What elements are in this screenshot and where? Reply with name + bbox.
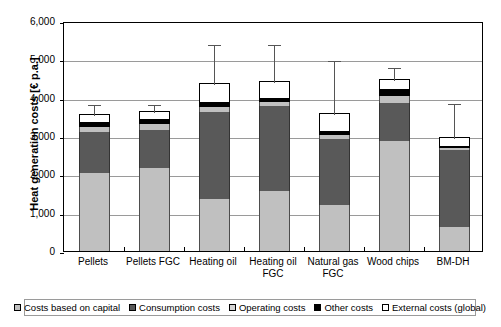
legend-swatch-icon [129, 304, 136, 311]
bar-segment [139, 130, 170, 168]
bar-segment [139, 168, 170, 251]
legend-label: Costs based on capital [24, 303, 120, 313]
bar-segment [199, 83, 230, 102]
stacked-bar[interactable] [79, 114, 110, 251]
bar-segment [439, 150, 470, 227]
bar-segment [259, 106, 290, 191]
bar-segment [199, 112, 230, 199]
error-bar [334, 61, 335, 115]
y-axis-tick-label: 4,000 [11, 94, 55, 104]
stacked-bar[interactable] [379, 79, 410, 251]
legend-item[interactable]: Other costs [314, 303, 373, 313]
error-bar [454, 104, 455, 140]
stacked-bar[interactable] [319, 113, 350, 251]
stacked-bar[interactable] [259, 81, 290, 251]
legend-label: Operating costs [239, 303, 306, 313]
bar-group [364, 23, 424, 251]
legend-item[interactable]: Consumption costs [129, 303, 220, 313]
legend-item[interactable]: Operating costs [229, 303, 306, 313]
stacked-bar[interactable] [139, 111, 170, 251]
legend-item[interactable]: External costs (global) [382, 303, 486, 313]
stacked-bar[interactable] [439, 137, 470, 251]
y-axis-tick-label: 0 [11, 247, 55, 257]
bar-segment [379, 103, 410, 141]
error-bar [394, 68, 395, 81]
y-axis-tick [60, 253, 64, 254]
x-axis-tick-label: Heating oil FGC [243, 256, 303, 280]
x-axis-tick-label: Natural gas FGC [303, 256, 363, 280]
bar-segment [319, 205, 350, 251]
bar-group [304, 23, 364, 251]
legend-swatch-icon [382, 304, 389, 311]
x-axis-tick-label: BM-DH [423, 256, 483, 268]
y-axis-tick-label: 5,000 [11, 55, 55, 65]
legend-swatch-icon [314, 304, 321, 311]
y-axis-tick-label: 6,000 [11, 17, 55, 27]
error-bar [274, 45, 275, 83]
bar-segment [319, 139, 350, 206]
error-bar-cap [328, 61, 341, 62]
bar-segment [439, 227, 470, 251]
y-axis-tick-label: 1,000 [11, 209, 55, 219]
bar-group [244, 23, 304, 251]
chart-legend: Costs based on capitalConsumption costsO… [24, 299, 476, 316]
stacked-bar[interactable] [199, 83, 230, 251]
error-bar-cap [88, 105, 101, 106]
x-axis-tick-label: Pellets FGC [123, 256, 183, 268]
legend-label: Other costs [324, 303, 373, 313]
x-axis-tick-label: Pellets [63, 256, 123, 268]
y-axis-tick-label: 3,000 [11, 132, 55, 142]
error-bar-cap [148, 105, 161, 106]
error-bar [94, 105, 95, 116]
bar-group [124, 23, 184, 251]
bar-segment [379, 89, 410, 96]
plot-area [63, 22, 483, 252]
legend-label: Consumption costs [139, 303, 220, 313]
legend-label: External costs (global) [392, 303, 486, 313]
legend-item[interactable]: Costs based on capital [14, 303, 120, 313]
bar-segment [319, 113, 350, 131]
bar-group [424, 23, 484, 251]
x-axis-tick-label: Heating oil [183, 256, 243, 268]
x-axis-tick-label: Wood chips [363, 256, 423, 268]
error-bar-cap [448, 104, 461, 105]
heat-generation-costs-chart: Heat generation costs [€ p.a.] 6,0005,00… [0, 0, 501, 327]
legend-swatch-icon [14, 304, 21, 311]
bar-segment [79, 173, 110, 251]
error-bar-cap [208, 45, 221, 46]
error-bar [154, 105, 155, 113]
bar-group [64, 23, 124, 251]
error-bar-cap [268, 45, 281, 46]
error-bar-cap [388, 68, 401, 69]
bar-segment [199, 199, 230, 251]
bar-segment [79, 132, 110, 173]
bar-group [184, 23, 244, 251]
bar-segment [379, 141, 410, 251]
bar-segment [259, 191, 290, 251]
bar-segment [259, 81, 290, 98]
error-bar [214, 45, 215, 85]
legend-swatch-icon [229, 304, 236, 311]
y-axis-tick-label: 2,000 [11, 170, 55, 180]
